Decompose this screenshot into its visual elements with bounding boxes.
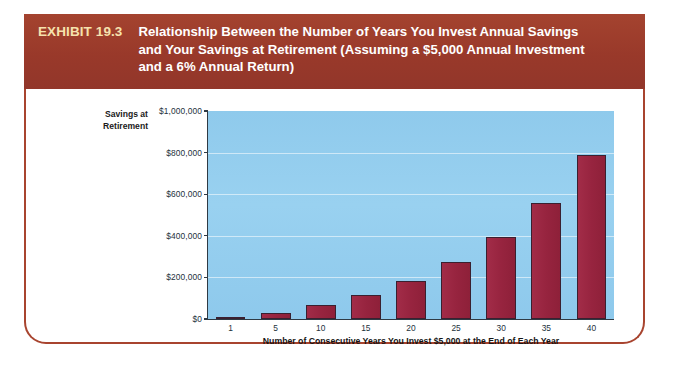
y-tick-label: $400,000	[166, 231, 202, 241]
gridline	[208, 153, 614, 154]
y-tick-mark	[204, 152, 208, 153]
exhibit-title-line-2: and Your Savings at Retirement (Assuming…	[138, 41, 631, 59]
y-tick-label: $1,000,000	[159, 106, 202, 116]
y-tick-mark	[204, 194, 208, 195]
bar	[396, 281, 426, 319]
x-tick-label: 30	[497, 323, 506, 333]
x-tick-label: 40	[587, 323, 596, 333]
y-tick-mark	[204, 235, 208, 236]
exhibit-title-line-1: Relationship Between the Number of Years…	[138, 23, 631, 41]
exhibit-figure: EXHIBIT 19.3 Relationship Between the Nu…	[24, 14, 645, 344]
y-tick-label: $800,000	[166, 148, 202, 158]
y-tick-label: $0	[192, 314, 202, 324]
bar	[486, 237, 516, 319]
x-tick-label: 25	[451, 323, 460, 333]
x-tick-label: 15	[361, 323, 370, 333]
exhibit-number-label: EXHIBIT 19.3	[38, 23, 122, 41]
x-tick-label: 1	[228, 323, 233, 333]
bar	[306, 305, 336, 319]
x-tick-label: 5	[273, 323, 278, 333]
x-tick-label: 10	[316, 323, 325, 333]
plot-wrap: $1,000,000$800,000$600,000$400,000$200,0…	[208, 111, 614, 319]
y-axis-title: Savings at Retirement	[86, 109, 148, 132]
bar	[531, 203, 561, 319]
y-axis-title-line-2: Retirement	[86, 121, 148, 133]
x-tick-label: 35	[542, 323, 551, 333]
gridline	[208, 194, 614, 195]
x-axis-title: Number of Consecutive Years You Invest $…	[208, 336, 614, 346]
y-tick-mark	[204, 110, 208, 111]
y-axis-line	[207, 111, 208, 319]
chart-body: Savings at Retirement $1,000,000$800,000…	[24, 60, 645, 344]
bar	[441, 262, 471, 319]
bar	[351, 295, 381, 319]
y-tick-label: $600,000	[166, 189, 202, 199]
y-tick-mark	[204, 277, 208, 278]
y-tick-mark	[204, 318, 208, 319]
x-axis-line	[207, 319, 614, 320]
y-axis-title-line-1: Savings at	[86, 109, 148, 121]
bar	[577, 155, 607, 319]
x-tick-label: 20	[406, 323, 415, 333]
y-tick-label: $200,000	[166, 272, 202, 282]
